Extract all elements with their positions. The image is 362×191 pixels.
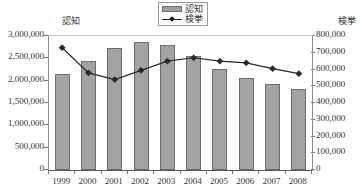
legend-item-kenkyo: 検挙 [162,14,203,24]
bar-2003 [160,45,175,170]
line-marker-2008 [295,70,302,77]
legend-line-swatch-icon [162,16,182,23]
x-tick-mark [311,170,312,174]
right-tick-label: 0 [316,164,321,173]
right-tick-label: 300,000 [316,114,345,123]
x-tick-mark [258,170,259,174]
chart-container: 認知 検挙 認知 検挙 0500,0001,000,0001,500,0002,… [0,0,362,191]
line-marker-2007 [269,65,276,72]
bar-2007 [265,84,280,170]
bar-2001 [107,48,122,170]
x-tick-mark [285,170,286,174]
left-tick-label: 2,500,000 [8,52,44,61]
right-axis-title: 検挙 [338,16,356,26]
x-label-2008: 2008 [283,176,313,186]
legend-label-kenkyo: 検挙 [185,14,203,24]
legend-label-ninchi: 認知 [185,4,203,14]
left-tick-label: 1,500,000 [8,97,44,106]
line-path-kenkyo [62,48,299,80]
x-tick-mark [153,170,154,174]
right-tick-label: 600,000 [316,64,345,73]
right-tick-label: 400,000 [316,97,345,106]
left-tick-label: 3,000,000 [8,30,44,39]
bar-2000 [81,61,96,170]
right-tick-label: 800,000 [316,30,345,39]
x-tick-mark [74,170,75,174]
bar-2006 [239,78,254,170]
right-tick-label: 700,000 [316,47,345,56]
plot-inner [49,36,312,170]
plot-area [48,35,313,171]
bar-2005 [212,69,227,170]
left-tick-label: 500,000 [15,142,44,151]
x-tick-mark [101,170,102,174]
legend-item-ninchi: 認知 [162,4,203,14]
x-tick-mark [48,170,49,174]
bar-2008 [291,89,306,170]
left-axis-title: 認知 [62,16,80,26]
bar-2002 [134,42,149,170]
left-tick-label: 2,000,000 [8,75,44,84]
chart-legend: 認知 検挙 [158,2,208,26]
line-marker-1999 [59,44,66,51]
right-tick-label: 100,000 [316,147,345,156]
bar-2004 [186,56,201,170]
line-marker-2006 [243,59,250,66]
bar-1999 [55,74,70,170]
line-marker-2005 [217,58,224,65]
x-tick-mark [206,170,207,174]
x-tick-mark [180,170,181,174]
right-tick-label: 500,000 [316,80,345,89]
right-tick-label: 200,000 [316,131,345,140]
legend-bar-swatch-icon [162,6,182,12]
left-tick-label: 1,000,000 [8,119,44,128]
x-tick-mark [232,170,233,174]
x-tick-mark [127,170,128,174]
